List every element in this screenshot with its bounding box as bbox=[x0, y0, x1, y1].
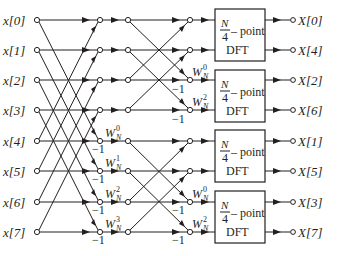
svg-text:N: N bbox=[115, 133, 122, 142]
twiddle-stage2-1: W N 2 bbox=[192, 93, 209, 111]
svg-text:– point: – point bbox=[230, 24, 265, 38]
twiddle-stage1-1: W N 1 bbox=[105, 154, 122, 172]
input-label-3: x[3] bbox=[2, 103, 25, 118]
input-labels: x[0] x[1] x[2] x[3] x[4] x[5] x[6] x[7] bbox=[2, 13, 25, 240]
svg-text:N: N bbox=[220, 17, 229, 29]
svg-text:2: 2 bbox=[116, 185, 120, 194]
output-label-3: X[6] bbox=[297, 103, 323, 118]
input-label-0: x[0] bbox=[2, 13, 25, 28]
input-nodes bbox=[34, 17, 39, 234]
dft-output-wires bbox=[265, 17, 290, 235]
svg-text:N: N bbox=[220, 138, 229, 150]
svg-text:W: W bbox=[105, 217, 116, 231]
svg-text:4: 4 bbox=[222, 212, 228, 226]
svg-text:4: 4 bbox=[222, 91, 228, 105]
svg-text:DFT: DFT bbox=[226, 164, 249, 178]
svg-text:N: N bbox=[202, 224, 209, 233]
output-label-2: X[2] bbox=[297, 73, 323, 88]
input-label-4: x[4] bbox=[2, 134, 25, 149]
svg-text:−1: −1 bbox=[92, 142, 105, 156]
twiddle-stage2-2: W N 0 bbox=[192, 185, 209, 203]
input-label-2: x[2] bbox=[2, 73, 25, 88]
stage2-output-nodes bbox=[187, 17, 192, 234]
input-label-6: x[6] bbox=[2, 195, 25, 210]
svg-text:W: W bbox=[192, 187, 203, 201]
svg-text:DFT: DFT bbox=[226, 43, 249, 57]
output-label-5: X[5] bbox=[297, 164, 323, 179]
svg-text:0: 0 bbox=[203, 63, 207, 72]
svg-text:N: N bbox=[202, 72, 209, 81]
output-label-0: X[0] bbox=[297, 13, 323, 28]
svg-text:– point: – point bbox=[230, 145, 265, 159]
svg-text:N: N bbox=[202, 194, 209, 203]
svg-text:−1: −1 bbox=[172, 82, 185, 96]
svg-text:2: 2 bbox=[203, 215, 207, 224]
stage2-diagonal-wires bbox=[130, 22, 188, 230]
dft-block-3: N 4 – point DFT bbox=[215, 191, 265, 243]
twiddle-stage2-0: W N 0 bbox=[192, 63, 209, 81]
dft-block-2: N 4 – point DFT bbox=[215, 130, 265, 182]
svg-text:N: N bbox=[115, 224, 122, 233]
svg-text:0: 0 bbox=[116, 124, 120, 133]
output-labels: X[0] X[4] X[2] X[6] X[1] X[5] X[3] X[7] bbox=[297, 13, 323, 240]
stage1-diagonal-wires bbox=[39, 22, 98, 230]
svg-text:3: 3 bbox=[116, 215, 120, 224]
svg-text:N: N bbox=[202, 102, 209, 111]
svg-text:– point: – point bbox=[230, 206, 265, 220]
twiddle-stage1-2: W N 2 bbox=[105, 185, 122, 203]
svg-text:−1: −1 bbox=[172, 112, 185, 126]
svg-text:4: 4 bbox=[222, 30, 228, 44]
stage1-horizontal-wires bbox=[40, 17, 97, 235]
svg-text:W: W bbox=[105, 187, 116, 201]
svg-text:N: N bbox=[220, 199, 229, 211]
output-label-7: X[7] bbox=[297, 225, 323, 240]
twiddle-stage1-0: W N 0 bbox=[105, 124, 122, 142]
twiddle-stage1-3: W N 3 bbox=[105, 215, 122, 233]
svg-text:−1: −1 bbox=[92, 203, 105, 217]
output-label-4: X[1] bbox=[297, 134, 323, 149]
svg-text:N: N bbox=[220, 78, 229, 90]
svg-text:1: 1 bbox=[116, 154, 120, 163]
svg-text:−1: −1 bbox=[172, 233, 185, 247]
twiddle-stage2-3: W N 2 bbox=[192, 215, 209, 233]
svg-text:−1: −1 bbox=[172, 203, 185, 217]
output-label-6: X[3] bbox=[297, 195, 323, 210]
svg-text:DFT: DFT bbox=[226, 104, 249, 118]
svg-text:W: W bbox=[105, 156, 116, 170]
output-label-1: X[4] bbox=[297, 43, 323, 58]
dft-block-1: N 4 – point DFT bbox=[215, 70, 265, 122]
input-label-5: x[5] bbox=[2, 164, 25, 179]
svg-text:– point: – point bbox=[230, 85, 265, 99]
stage2-input-nodes bbox=[125, 17, 130, 234]
svg-text:N: N bbox=[115, 163, 122, 172]
svg-text:4: 4 bbox=[222, 151, 228, 165]
svg-text:W: W bbox=[192, 95, 203, 109]
input-label-1: x[1] bbox=[2, 43, 25, 58]
stage2-twiddle-labels: W N 0 W N 2 W N 0 W N 2 bbox=[192, 63, 209, 233]
svg-text:0: 0 bbox=[203, 185, 207, 194]
svg-text:W: W bbox=[105, 126, 116, 140]
dft-block-0: N 4 – point DFT bbox=[215, 9, 265, 61]
fft-flow-graph: N 4 – point DFT N 4 – point DFT N 4 – po… bbox=[0, 0, 337, 256]
svg-text:W: W bbox=[192, 65, 203, 79]
output-nodes bbox=[291, 18, 296, 235]
svg-text:−1: −1 bbox=[92, 172, 105, 186]
svg-text:W: W bbox=[192, 217, 203, 231]
svg-text:N: N bbox=[115, 194, 122, 203]
svg-text:DFT: DFT bbox=[226, 225, 249, 239]
svg-text:2: 2 bbox=[203, 93, 207, 102]
svg-text:−1: −1 bbox=[92, 233, 105, 247]
input-label-7: x[7] bbox=[2, 225, 25, 240]
